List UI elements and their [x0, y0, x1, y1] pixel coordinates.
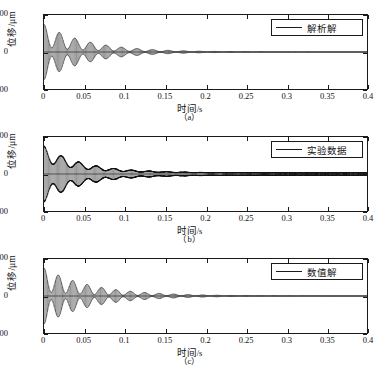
panel-c: 位移/μm 数值解 时间/s （c） 00.050.10.150.20.250.…	[0, 244, 379, 366]
y-tick-label: 200	[0, 253, 8, 262]
x-tick	[368, 329, 369, 333]
x-tick	[247, 329, 248, 333]
x-tick	[247, 15, 248, 19]
x-tick-label: 0.3	[267, 214, 307, 223]
x-tick	[368, 15, 369, 19]
x-tick	[166, 15, 167, 19]
x-tick-label: 0.05	[64, 92, 104, 101]
x-tick-label: 0.1	[104, 92, 144, 101]
legend-line-icon	[276, 27, 302, 28]
x-tick	[328, 207, 329, 211]
x-tick	[166, 259, 167, 263]
x-tick	[125, 137, 126, 141]
x-tick-label: 0.15	[145, 92, 185, 101]
subcaption-c: （c）	[0, 354, 379, 366]
x-tick	[247, 85, 248, 89]
y-tick-label: 0	[0, 47, 8, 56]
y-tick-label: 0	[0, 291, 8, 300]
y-tick-label: 200	[0, 131, 8, 140]
y-tick-label: −200	[0, 329, 8, 338]
x-tick	[125, 15, 126, 19]
x-tick-label: 0.4	[348, 92, 379, 101]
y-tick	[44, 15, 48, 16]
x-tick	[368, 207, 369, 211]
plot-area-a: 解析解	[43, 14, 368, 90]
x-tick	[125, 85, 126, 89]
x-tick	[125, 259, 126, 263]
x-tick	[247, 259, 248, 263]
x-tick-label: 0.1	[104, 336, 144, 345]
x-tick	[44, 85, 45, 89]
x-tick	[288, 207, 289, 211]
legend-label-b: 实验数据	[307, 143, 347, 157]
legend-b: 实验数据	[271, 141, 363, 158]
x-tick	[166, 137, 167, 141]
y-tick	[363, 259, 367, 260]
x-tick	[288, 85, 289, 89]
legend-label-a: 解析解	[307, 21, 337, 35]
x-tick-label: 0.4	[348, 214, 379, 223]
x-tick	[368, 137, 369, 141]
x-tick-label: 0.35	[307, 336, 347, 345]
x-tick-label: 0.35	[307, 214, 347, 223]
y-tick-label: −200	[0, 207, 8, 216]
y-tick	[44, 297, 48, 298]
x-tick	[207, 329, 208, 333]
x-tick	[368, 85, 369, 89]
x-tick	[85, 329, 86, 333]
x-tick	[207, 85, 208, 89]
y-tick-label: 0	[0, 169, 8, 178]
y-tick	[44, 137, 48, 138]
y-tick	[363, 137, 367, 138]
x-tick	[85, 15, 86, 19]
y-tick	[44, 175, 48, 176]
x-tick	[207, 207, 208, 211]
y-tick	[363, 53, 367, 54]
subcaption-b: （b）	[0, 232, 379, 244]
x-tick-label: 0.3	[267, 336, 307, 345]
x-tick-label: 0.15	[145, 336, 185, 345]
x-tick	[288, 329, 289, 333]
x-tick-label: 0.4	[348, 336, 379, 345]
x-tick	[207, 15, 208, 19]
x-tick-label: 0	[23, 214, 63, 223]
x-tick-label: 0.2	[186, 92, 226, 101]
x-tick	[207, 259, 208, 263]
x-tick	[207, 137, 208, 141]
legend-line-icon	[276, 149, 302, 150]
x-tick-label: 0.2	[186, 336, 226, 345]
y-tick	[363, 175, 367, 176]
y-tick	[363, 297, 367, 298]
x-tick	[368, 259, 369, 263]
x-tick-label: 0.05	[64, 214, 104, 223]
plot-area-b: 实验数据	[43, 136, 368, 212]
x-tick	[85, 85, 86, 89]
x-tick	[247, 207, 248, 211]
y-tick	[44, 259, 48, 260]
legend-a: 解析解	[271, 19, 363, 36]
x-tick	[85, 137, 86, 141]
x-tick	[44, 207, 45, 211]
legend-c: 数值解	[271, 263, 363, 280]
legend-label-c: 数值解	[307, 265, 337, 279]
x-tick	[125, 329, 126, 333]
x-tick-label: 0.2	[186, 214, 226, 223]
panel-a: 位移/μm 解析解 时间/s （a） 00.050.10.150.20.250.…	[0, 0, 379, 122]
x-tick	[85, 259, 86, 263]
panel-b: 位移/μm 实验数据 时间/s （b） 00.050.10.150.20.250…	[0, 122, 379, 244]
y-tick	[44, 53, 48, 54]
x-tick	[125, 207, 126, 211]
x-tick-label: 0.1	[104, 214, 144, 223]
x-tick	[328, 85, 329, 89]
x-tick-label: 0.3	[267, 92, 307, 101]
x-tick-label: 0.25	[226, 336, 266, 345]
y-tick-label: 200	[0, 9, 8, 18]
x-tick-label: 0	[23, 336, 63, 345]
x-tick	[166, 85, 167, 89]
x-tick-label: 0.05	[64, 336, 104, 345]
figure-damped-vibration-comparison: 位移/μm 解析解 时间/s （a） 00.050.10.150.20.250.…	[0, 0, 379, 366]
subcaption-a: （a）	[0, 110, 379, 122]
x-tick	[247, 137, 248, 141]
y-tick	[363, 15, 367, 16]
x-tick	[44, 329, 45, 333]
